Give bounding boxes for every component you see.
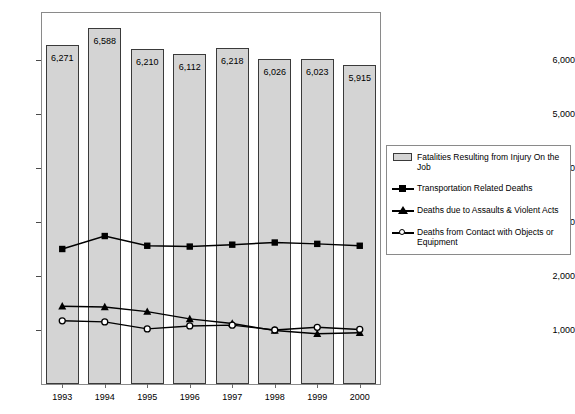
line-series-3 (59, 318, 363, 333)
filled-square-marker-icon (392, 183, 414, 194)
x-axis-tick-label: 1998 (253, 393, 297, 402)
filled-triangle-marker-icon (392, 205, 414, 216)
chart-legend: Fatalities Resulting from Injury On the … (386, 145, 571, 255)
legend-label: Deaths from Contact with Objects or Equi… (417, 227, 565, 247)
x-axis-tick-label: 1993 (40, 393, 84, 402)
x-axis-tick-label: 1997 (210, 393, 254, 402)
open-circle-marker-icon (392, 227, 414, 238)
open-circle-marker (102, 319, 108, 325)
open-circle-marker (314, 324, 320, 330)
open-circle-marker (229, 322, 235, 328)
filled-square-marker (272, 239, 278, 245)
y-axis-tick-label: 6,000 (537, 56, 575, 65)
x-axis-tick-label: 1999 (295, 393, 339, 402)
legend-label: Deaths due to Assaults & Violent Acts (417, 205, 559, 215)
filled-square-marker (357, 243, 363, 249)
y-axis-tick-label: 5,000 (537, 110, 575, 119)
open-circle-marker (187, 323, 193, 329)
legend-label: Fatalities Resulting from Injury On the … (417, 152, 565, 172)
chart-figure: 1,0002,0003,0004,0005,0006,000 6,2716,58… (0, 0, 575, 414)
filled-square-marker (144, 243, 150, 249)
open-circle-marker (144, 326, 150, 332)
line-series-layer (41, 12, 381, 385)
filled-square-marker (102, 233, 108, 239)
x-axis-tick-label: 1996 (168, 393, 212, 402)
bar-swatch-icon (392, 152, 414, 163)
y-axis-tick-label: 1,000 (537, 326, 575, 335)
legend-label: Transportation Related Deaths (417, 183, 532, 193)
x-axis-tick-label: 1995 (125, 393, 169, 402)
legend-item-transportation: Transportation Related Deaths (392, 183, 565, 194)
legend-item-assaults: Deaths due to Assaults & Violent Acts (392, 205, 565, 216)
open-circle-marker (272, 327, 278, 333)
legend-item-fatalities: Fatalities Resulting from Injury On the … (392, 152, 565, 172)
filled-square-marker (59, 246, 65, 252)
x-axis-tick-label: 2000 (338, 393, 382, 402)
filled-square-marker (314, 241, 320, 247)
y-axis-tick-label: 2,000 (537, 272, 575, 281)
filled-square-marker (229, 241, 235, 247)
filled-square-marker (187, 243, 193, 249)
open-circle-marker (357, 326, 363, 332)
line-series-1 (59, 233, 363, 252)
x-axis-tick-label: 1994 (83, 393, 127, 402)
open-circle-marker (59, 318, 65, 324)
legend-item-contact-objects: Deaths from Contact with Objects or Equi… (392, 227, 565, 247)
